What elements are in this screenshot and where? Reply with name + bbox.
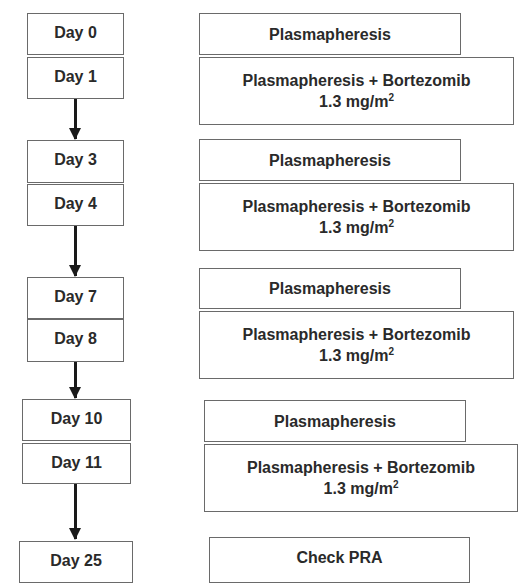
treatment-box-4: Plasmapheresis + Bortezomib 1.3 mg/m2	[199, 183, 514, 251]
treatment-label: Plasmapheresis + Bortezomib	[242, 196, 470, 217]
treatment-box-25: Check PRA	[209, 537, 470, 583]
day-label: Day 4	[54, 193, 97, 214]
day-label: Day 0	[54, 22, 97, 43]
dose-label: 1.3 mg/m2	[319, 91, 394, 112]
treatment-label: Plasmapheresis + Bortezomib	[242, 70, 470, 91]
day-box-3: Day 3	[27, 140, 124, 183]
treatment-box-3: Plasmapheresis	[199, 139, 461, 181]
day-box-7: Day 7	[27, 277, 124, 319]
treatment-box-10: Plasmapheresis	[204, 400, 466, 442]
treatment-box-0: Plasmapheresis	[199, 13, 461, 55]
day-label: Day 7	[54, 286, 97, 307]
arrow-down-icon	[74, 226, 77, 276]
treatment-label: Plasmapheresis	[269, 278, 391, 299]
treatment-box-11: Plasmapheresis + Bortezomib 1.3 mg/m2	[204, 444, 518, 512]
day-label: Day 8	[54, 328, 97, 349]
dose-label: 1.3 mg/m2	[319, 217, 394, 238]
treatment-label: Plasmapheresis + Bortezomib	[242, 324, 470, 345]
treatment-label: Plasmapheresis	[274, 411, 396, 432]
day-box-25: Day 25	[19, 541, 133, 583]
day-label: Day 3	[54, 149, 97, 170]
day-box-10: Day 10	[22, 399, 131, 441]
treatment-box-1: Plasmapheresis + Bortezomib 1.3 mg/m2	[199, 57, 514, 125]
day-label: Day 10	[51, 408, 103, 429]
treatment-label: Plasmapheresis + Bortezomib	[247, 457, 475, 478]
dose-label: 1.3 mg/m2	[319, 345, 394, 366]
arrow-down-icon	[74, 484, 77, 539]
treatment-label: Check PRA	[296, 547, 382, 568]
day-box-1: Day 1	[27, 57, 124, 99]
day-label: Day 25	[50, 550, 102, 571]
arrow-down-icon	[74, 362, 77, 398]
arrow-down-icon	[74, 99, 77, 139]
treatment-box-7: Plasmapheresis	[199, 268, 461, 309]
day-box-0: Day 0	[27, 13, 124, 55]
day-box-8: Day 8	[27, 319, 124, 362]
treatment-label: Plasmapheresis	[269, 150, 391, 171]
dose-label: 1.3 mg/m2	[324, 478, 399, 499]
day-box-4: Day 4	[27, 184, 124, 226]
treatment-label: Plasmapheresis	[269, 24, 391, 45]
day-box-11: Day 11	[22, 443, 131, 484]
day-label: Day 11	[51, 452, 102, 473]
treatment-box-8: Plasmapheresis + Bortezomib 1.3 mg/m2	[199, 311, 514, 379]
day-label: Day 1	[54, 66, 97, 87]
